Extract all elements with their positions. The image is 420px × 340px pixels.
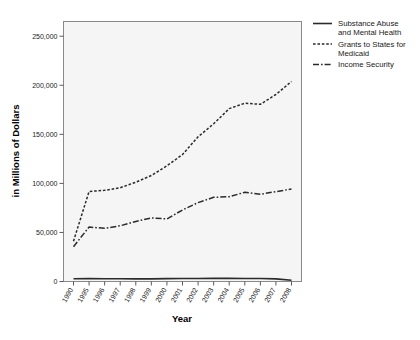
legend-label-1: Grants to States for	[338, 40, 406, 49]
legend-label-0-line2: and Mental Health	[338, 28, 401, 37]
legend-label-2: Income Security	[338, 60, 394, 69]
plot-area-background	[64, 22, 302, 282]
x-tick-label: 2008	[279, 286, 293, 303]
legend-label-0: Substance Abuse	[338, 19, 399, 28]
line-chart: 050,000100,000150,000200,000250,000 1990…	[0, 0, 420, 340]
legend-label-1-line2: Medicaid	[338, 49, 369, 58]
x-tick-label: 2002	[185, 286, 199, 303]
y-tick-label: 250,000	[32, 33, 57, 40]
x-tick-label: 1995	[76, 286, 90, 303]
x-tick-label: 2003	[201, 286, 215, 303]
y-tick-label: 100,000	[32, 180, 57, 187]
y-tick-label: 0	[54, 278, 58, 285]
y-tick-label: 50,000	[36, 229, 58, 236]
y-axis-ticks: 050,000100,000150,000200,000250,000	[32, 33, 63, 285]
x-tick-label: 2006	[247, 286, 261, 303]
y-axis-title: in Millions of Dollars	[10, 105, 21, 198]
x-tick-label: 2001	[170, 286, 184, 303]
x-tick-label: 1999	[138, 286, 152, 303]
x-tick-label: 1998	[123, 286, 137, 303]
x-tick-label: 1997	[107, 286, 121, 303]
y-tick-label: 150,000	[32, 131, 57, 138]
y-tick-label: 200,000	[32, 82, 57, 89]
x-axis-title: Year	[172, 313, 192, 324]
chart-container: 050,000100,000150,000200,000250,000 1990…	[0, 0, 420, 340]
chart-legend: Substance Abuseand Mental HealthGrants t…	[313, 19, 406, 69]
x-tick-label: 2004	[216, 286, 230, 303]
x-tick-label: 2005	[232, 286, 246, 303]
x-tick-label: 2007	[263, 286, 277, 303]
x-tick-label: 1990	[61, 286, 75, 303]
x-axis-ticks: 1990199519961997199819992000200120022003…	[61, 282, 293, 304]
x-tick-label: 1996	[92, 286, 106, 303]
x-tick-label: 2000	[154, 286, 168, 303]
